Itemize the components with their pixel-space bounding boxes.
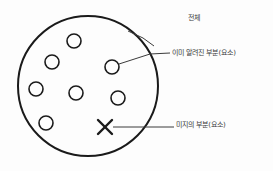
- diagram-canvas: 전체 이미 알려진 부분(요소) 미지의 부분(요소): [0, 0, 273, 171]
- known-element-circle: [39, 116, 53, 130]
- known-element-circle: [69, 86, 83, 100]
- label-unknown: 미지의 부분(요소): [176, 122, 226, 129]
- label-whole: 전체: [188, 15, 200, 22]
- unknown-element-x-mark: [98, 120, 112, 134]
- known-element-circle: [29, 82, 43, 96]
- known-element-circle: [67, 34, 81, 48]
- label-known: 이미 알려진 부분(요소): [172, 50, 236, 57]
- leader-line-known: [119, 53, 170, 64]
- known-element-circle: [105, 60, 119, 74]
- known-element-group: [29, 34, 125, 130]
- known-element-circle: [111, 91, 125, 105]
- leader-line-whole: [128, 31, 154, 46]
- whole-set-circle: [18, 16, 158, 156]
- known-element-circle: [45, 55, 59, 69]
- leader-line-group: [113, 31, 174, 127]
- diagram-svg: [0, 0, 273, 171]
